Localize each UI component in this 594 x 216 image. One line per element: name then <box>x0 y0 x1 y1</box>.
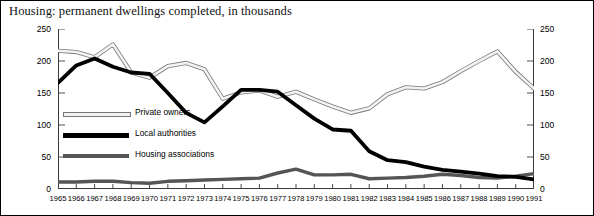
y-axis-right-label: 100 <box>540 120 568 130</box>
page-title: Housing: permanent dwellings completed, … <box>9 4 292 19</box>
housing-associations-swatch <box>63 154 129 158</box>
y-axis-left-label: 200 <box>23 56 51 66</box>
bottom-tick-marks <box>58 184 534 189</box>
y-axis-right-label: 200 <box>540 56 568 66</box>
local-authorities-line <box>58 58 534 179</box>
y-axis-left-label: 100 <box>23 120 51 130</box>
y-axis-right-label: 250 <box>540 24 568 34</box>
y-axis-right-label: 150 <box>540 88 568 98</box>
legend-label: Housing associations <box>135 149 214 159</box>
legend-label: Private owners <box>135 107 190 117</box>
plot-area <box>58 29 534 189</box>
y-axis-left-label: 50 <box>23 152 51 162</box>
line-chart-svg <box>58 29 534 189</box>
private-owners-line-inner <box>58 44 534 112</box>
right-tick-marks <box>527 29 534 189</box>
legend-label: Local authorities <box>135 128 196 138</box>
x-axis-label: 1991 <box>521 194 547 203</box>
y-axis-left-label: 0 <box>23 184 51 194</box>
series-private-owners <box>58 44 534 112</box>
private-owners-swatch <box>63 112 131 117</box>
y-axis-left-label: 250 <box>23 24 51 34</box>
series-local-authorities <box>58 58 534 179</box>
y-axis-right-label: 0 <box>540 184 568 194</box>
local-authorities-swatch <box>63 133 129 138</box>
private-owners-line-outer <box>58 44 534 112</box>
y-axis-right-label: 50 <box>540 152 568 162</box>
y-axis-left-label: 150 <box>23 88 51 98</box>
chart-frame: Housing: permanent dwellings completed, … <box>0 0 594 216</box>
